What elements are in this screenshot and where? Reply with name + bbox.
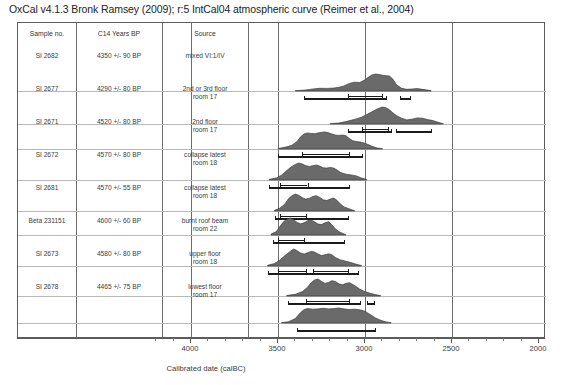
- table-cell-r0-c2: mixed VI:1/IV: [162, 52, 248, 60]
- table-cell-r0-c1: 4350 +/- 90 BP: [76, 52, 162, 60]
- x-tick-minor-3200: [329, 338, 330, 341]
- x-tick-minor-2800: [399, 338, 400, 341]
- table-cell-r1-c2: 2nd or 3rd floor room 17: [162, 85, 248, 101]
- x-tick-major-2000: [538, 338, 539, 343]
- x-tick-minor-2600: [434, 338, 435, 341]
- page-title: OxCal v4.1.3 Bronk Ramsey (2009); r:5 In…: [9, 3, 414, 15]
- x-tick-minor-3400: [294, 338, 295, 341]
- table-cell-r1-c1: 4290 +/- 80 BP: [76, 85, 162, 93]
- table-cell-r2-c0: SI 2671: [18, 118, 76, 126]
- x-tick-minor-2300: [486, 338, 487, 341]
- x-tick-minor-3900: [207, 338, 208, 341]
- x-tick-label-3000: 3000: [344, 344, 384, 353]
- table-header-2: Source: [162, 30, 248, 38]
- x-tick-major-3000: [364, 338, 365, 343]
- table-cell-r0-c0: SI 2682: [18, 52, 76, 60]
- x-tick-major-4000: [190, 338, 191, 343]
- table-cell-r4-c0: SI 2681: [18, 184, 76, 192]
- x-tick-minor-3100: [347, 338, 348, 341]
- x-tick-minor-2900: [381, 338, 382, 341]
- x-axis-title: Calibrated date (calBC): [17, 364, 545, 373]
- x-tick-minor-2100: [521, 338, 522, 341]
- table-cell-r7-c1: 4465 +/- 75 BP: [76, 283, 162, 291]
- table-cell-r5-c1: 4600 +/- 60 BP: [76, 217, 162, 225]
- x-tick-minor-2200: [503, 338, 504, 341]
- x-tick-minor-3700: [242, 338, 243, 341]
- table-header-1: C14 Years BP: [76, 30, 162, 38]
- table-cell-r6-c0: SI 2673: [18, 250, 76, 258]
- x-axis-title-label: Calibrated date (calBC): [167, 364, 246, 373]
- table-cell-r3-c2: collapse latest room 18: [162, 151, 248, 167]
- table-header-0: Sample no.: [18, 30, 76, 38]
- table-cell-r2-c1: 4520 +/- 80 BP: [76, 118, 162, 126]
- table-cell-r4-c2: collapse latest room 18: [162, 184, 248, 200]
- x-tick-label-2500: 2500: [431, 344, 471, 353]
- x-tick-label-3500: 3500: [257, 344, 297, 353]
- table-cell-r6-c2: upper floor room 18: [162, 250, 248, 266]
- x-tick-minor-3600: [260, 338, 261, 341]
- x-tick-minor-3800: [225, 338, 226, 341]
- table-cell-r6-c1: 4580 +/- 80 BP: [76, 250, 162, 258]
- x-tick-major-3500: [277, 338, 278, 343]
- table-cell-r1-c0: SI 2677: [18, 85, 76, 93]
- x-tick-label-2000: 2000: [518, 344, 558, 353]
- plot-frame: Sample no.C14 Years BPSourceSI 26824350 …: [17, 22, 545, 338]
- x-tick-minor-4200: [155, 338, 156, 341]
- table-cell-r3-c1: 4570 +/- 80 BP: [76, 151, 162, 159]
- table-cell-r5-c0: Beta 231151: [18, 217, 76, 225]
- table-cell-r2-c2: 2nd floor room 17: [162, 118, 248, 134]
- table-cell-r5-c2: burnt roof beam room 22: [162, 217, 248, 233]
- x-axis: 40003500300025002000: [17, 338, 545, 364]
- x-tick-minor-3300: [312, 338, 313, 341]
- sample-table: Sample no.C14 Years BPSourceSI 26824350 …: [18, 23, 544, 337]
- x-axis-line: [17, 338, 545, 339]
- table-cell-r4-c1: 4570 +/- 55 BP: [76, 184, 162, 192]
- x-tick-label-4000: 4000: [170, 344, 210, 353]
- x-tick-minor-2400: [468, 338, 469, 341]
- x-tick-minor-2700: [416, 338, 417, 341]
- table-cell-r7-c2: lowest floor room 17: [162, 283, 248, 299]
- table-cell-r3-c0: SI 2672: [18, 151, 76, 159]
- x-tick-major-2500: [451, 338, 452, 343]
- table-cell-r7-c0: SI 2678: [18, 283, 76, 291]
- x-tick-minor-4100: [173, 338, 174, 341]
